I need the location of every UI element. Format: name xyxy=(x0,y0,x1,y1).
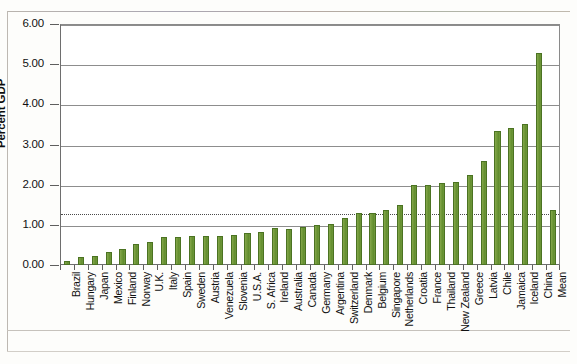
x-tick-label: Belgium xyxy=(377,272,388,309)
x-tick-label: Singapore xyxy=(391,272,402,318)
x-tick-mark xyxy=(241,265,242,270)
x-tick-label: China xyxy=(543,272,554,298)
x-tick-mark xyxy=(532,265,533,270)
y-tick-label: 0.00 xyxy=(0,259,44,271)
x-tick-label: Norway xyxy=(141,272,152,306)
scanned-page: Percent GDP BrazilHungaryJapanMexicoFinl… xyxy=(0,0,577,364)
x-tick-mark xyxy=(268,265,269,270)
bar xyxy=(119,249,125,265)
x-tick-mark xyxy=(366,265,367,270)
x-tick-mark xyxy=(449,265,450,270)
x-tick-label: Germany xyxy=(321,272,332,314)
x-tick-label: Spain xyxy=(182,272,193,298)
x-tick-label: Jamaica xyxy=(516,272,527,310)
x-tick-label: U.K. xyxy=(154,272,165,292)
bar xyxy=(397,205,403,265)
y-tick-label: 4.00 xyxy=(0,99,44,111)
x-tick-label: Thailand xyxy=(446,272,457,311)
x-tick-mark xyxy=(296,265,297,270)
x-tick-label: Hungary xyxy=(85,272,96,310)
x-tick-mark xyxy=(157,265,158,270)
bar xyxy=(522,124,528,265)
y-tick-label: 5.00 xyxy=(0,58,44,70)
y-tick-label: 1.00 xyxy=(0,219,44,231)
x-tick-label: Iceland xyxy=(529,272,540,304)
x-tick-mark xyxy=(546,265,547,270)
x-tick-label: Italy xyxy=(168,272,179,290)
x-tick-mark xyxy=(491,265,492,270)
bar xyxy=(342,218,348,265)
x-tick-mark xyxy=(463,265,464,270)
bar xyxy=(175,237,181,265)
x-tick-label: Denmark xyxy=(363,272,374,313)
x-tick-mark xyxy=(60,265,61,270)
x-tick-label: Sweden xyxy=(196,272,207,309)
y-tick-mark xyxy=(50,64,59,65)
x-tick-mark xyxy=(559,265,560,270)
x-tick-label: New Zealand xyxy=(460,272,471,332)
x-tick-label: Japan xyxy=(99,272,110,300)
x-tick-label: Greece xyxy=(474,272,485,305)
x-tick-mark xyxy=(116,265,117,270)
x-tick-label: Austria xyxy=(210,272,221,303)
y-tick-mark xyxy=(50,145,59,146)
x-tick-mark xyxy=(477,265,478,270)
x-tick-mark xyxy=(102,265,103,270)
bar xyxy=(161,237,167,265)
bar xyxy=(244,233,250,265)
bar xyxy=(272,228,278,265)
x-tick-mark xyxy=(213,265,214,270)
x-tick-label: Venezuela xyxy=(224,272,235,319)
bar xyxy=(453,182,459,265)
x-tick-mark xyxy=(379,265,380,270)
x-tick-label: U.S.A. xyxy=(252,272,263,301)
bar-chart: Percent GDP BrazilHungaryJapanMexicoFinl… xyxy=(0,0,577,364)
x-tick-label: Argentina xyxy=(335,272,346,315)
x-tick-mark xyxy=(88,265,89,270)
y-tick-mark xyxy=(50,225,59,226)
bar xyxy=(536,53,542,265)
bar xyxy=(217,236,223,265)
x-tick-label: Croatia xyxy=(418,272,429,304)
bar xyxy=(258,232,264,265)
x-tick-mark xyxy=(338,265,339,270)
x-tick-mark xyxy=(324,265,325,270)
x-tick-mark xyxy=(518,265,519,270)
bar xyxy=(106,252,112,265)
x-tick-mark xyxy=(504,265,505,270)
y-tick-mark xyxy=(50,265,59,266)
x-tick-mark xyxy=(407,265,408,270)
x-tick-mark xyxy=(421,265,422,270)
x-tick-mark xyxy=(129,265,130,270)
bar xyxy=(411,185,417,265)
x-tick-mark xyxy=(254,265,255,270)
y-tick-label: 6.00 xyxy=(0,18,44,30)
x-tick-label: Finland xyxy=(127,272,138,305)
x-tick-mark xyxy=(393,265,394,270)
x-tick-mark xyxy=(143,265,144,270)
x-tick-mark xyxy=(227,265,228,270)
bar xyxy=(78,257,84,265)
x-tick-label: Mean xyxy=(557,272,568,298)
x-tick-label: France xyxy=(432,272,443,303)
x-tick-label: Latvia xyxy=(488,272,499,299)
bar xyxy=(328,224,334,265)
y-tick-mark xyxy=(50,185,59,186)
bar xyxy=(286,229,292,265)
bar xyxy=(439,183,445,265)
bar xyxy=(92,256,98,265)
bar xyxy=(383,210,389,265)
bar xyxy=(481,161,487,265)
bar xyxy=(203,236,209,265)
bar xyxy=(314,225,320,265)
bar xyxy=(133,244,139,265)
bar-series xyxy=(60,24,560,265)
y-tick-mark xyxy=(50,104,59,105)
x-tick-mark xyxy=(74,265,75,270)
x-tick-mark xyxy=(310,265,311,270)
x-tick-mark xyxy=(171,265,172,270)
x-axis-labels: BrazilHungaryJapanMexicoFinlandNorwayU.K… xyxy=(60,272,560,358)
y-tick-label: 2.00 xyxy=(0,179,44,191)
bar xyxy=(550,210,556,265)
bar xyxy=(425,185,431,265)
